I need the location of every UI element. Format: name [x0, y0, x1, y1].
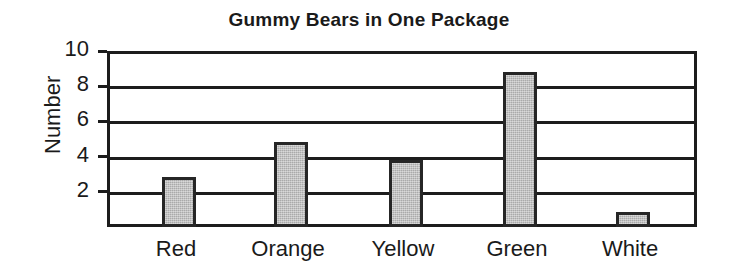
chart-title: Gummy Bears in One Package [0, 9, 738, 31]
x-tick-label-white: White [570, 236, 690, 262]
y-tick-label-4: 4 [45, 142, 89, 168]
gridline-8 [110, 86, 694, 89]
y-tick-mark-2 [98, 190, 107, 193]
bar-white [616, 212, 650, 227]
y-tick-label-10: 10 [45, 36, 89, 62]
x-tick-label-red: Red [116, 236, 236, 262]
chart-figure: Gummy Bears in One Package Number 108642… [0, 0, 738, 280]
x-tick-label-yellow: Yellow [343, 236, 463, 262]
y-tick-mark-6 [98, 120, 107, 123]
bar-green [503, 72, 537, 227]
x-tick-label-green: Green [457, 236, 577, 262]
x-tick-label-orange: Orange [228, 236, 348, 262]
bar-orange [274, 142, 308, 227]
plot-area [107, 51, 697, 227]
y-tick-mark-8 [98, 85, 107, 88]
y-tick-mark-4 [98, 155, 107, 158]
gridline-6 [110, 121, 694, 124]
y-tick-label-2: 2 [45, 177, 89, 203]
bar-red [162, 177, 196, 227]
y-tick-label-6: 6 [45, 106, 89, 132]
y-tick-mark-10 [98, 50, 107, 53]
bar-yellow [389, 160, 423, 227]
y-tick-label-8: 8 [45, 71, 89, 97]
